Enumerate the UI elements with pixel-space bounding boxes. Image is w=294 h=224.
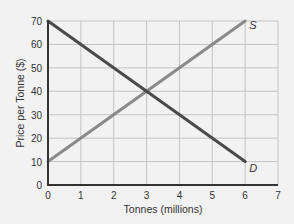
x-tick-label: 0 (45, 190, 51, 201)
y-tick-label: 20 (31, 133, 43, 144)
supply-label: S (249, 19, 257, 31)
y-axis-label: Price per Tonne ($) (14, 58, 26, 147)
x-axis-label: Tonnes (millions) (124, 203, 203, 215)
y-tick-label: 40 (31, 86, 43, 97)
x-tick-label: 3 (144, 190, 150, 201)
supply-demand-chart: 01234567010203040506070 Tonnes (millions… (0, 0, 294, 224)
y-tick-label: 10 (31, 157, 43, 168)
x-tick-label: 6 (242, 190, 248, 201)
x-tick-label: 5 (210, 190, 216, 201)
x-tick-label: 7 (275, 190, 281, 201)
tick-labels: 01234567010203040506070 (31, 16, 281, 201)
y-tick-label: 30 (31, 110, 43, 121)
demand-label: D (249, 162, 257, 174)
x-tick-label: 2 (111, 190, 117, 201)
x-tick-label: 4 (177, 190, 183, 201)
x-tick-label: 1 (78, 190, 84, 201)
y-tick-label: 70 (31, 16, 43, 27)
y-tick-label: 0 (36, 180, 42, 191)
curve-labels: SD (249, 19, 257, 174)
y-tick-label: 60 (31, 39, 43, 50)
y-tick-label: 50 (31, 63, 43, 74)
